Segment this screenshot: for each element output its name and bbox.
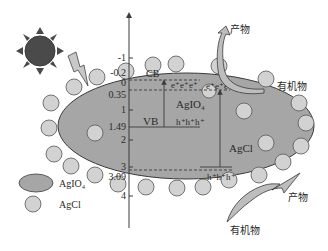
legend-ellipse-swatch: [19, 174, 53, 192]
product-label-bottom: 产物: [288, 191, 308, 203]
vb-label: VB: [143, 115, 158, 127]
legend-label: AgIO₄: [59, 178, 86, 189]
tick-label: 1.49: [109, 121, 127, 132]
tick-label: 1: [121, 104, 126, 115]
agio4-label: AgIO₄: [176, 98, 205, 110]
tick-label: 0.35: [109, 89, 127, 100]
organic-label-top: 有机物: [277, 80, 307, 92]
legend: AgIO₄ AgCl: [19, 174, 86, 212]
sun-icon: [16, 27, 64, 75]
agcl-label: AgCl: [229, 142, 253, 154]
product-label-top: 产物: [230, 23, 250, 35]
cb-label: CB: [146, 68, 160, 79]
organic-label-bottom: 有机物: [230, 224, 260, 236]
tick-label: -1: [118, 52, 126, 63]
agio4-electrons: e⁺e⁺e⁺: [171, 80, 198, 90]
agio4-holes: h⁺h⁺h⁺: [176, 117, 205, 127]
tick-label: 4: [121, 190, 126, 201]
tick-label: 3.09: [109, 171, 127, 182]
agcl-holes: h⁺h⁺h⁺: [207, 172, 236, 182]
tick-label: 0: [121, 77, 126, 88]
photocatalysis-diagram: -1 -0.2 0 0.35 1 1.49 2 3 3.09 4 CB VB e…: [0, 0, 328, 251]
tick-label: 2: [121, 134, 126, 145]
legend-label: AgCl: [59, 199, 81, 210]
legend-circle-swatch: [25, 196, 41, 212]
